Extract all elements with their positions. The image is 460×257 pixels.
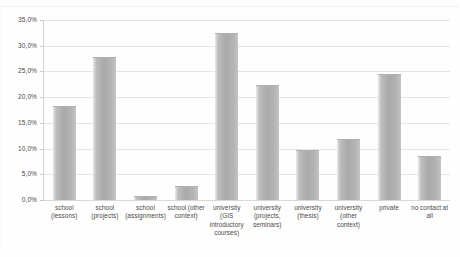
y-axis-tick-label: 5,0% [22, 170, 37, 177]
bar [337, 139, 360, 200]
bar [296, 150, 319, 200]
x-axis-category-label: school (lessons) [44, 204, 85, 221]
y-axis-tick-label: 35,0% [18, 16, 37, 23]
bar-chart-figure: 35,0%30,0%25,0%20,0%15,0%10,0%5,0%0,0% s… [0, 0, 460, 257]
x-axis-category-label: school (assignments) [125, 204, 166, 221]
x-axis-category-label: university (projects, seminars) [247, 204, 288, 229]
bar [175, 186, 198, 200]
x-axis-category-label: university (GIS introductory courses) [206, 204, 247, 238]
y-axis-tick-mark [40, 71, 44, 72]
bar [93, 57, 116, 200]
y-axis-tick-label: 25,0% [18, 67, 37, 74]
x-axis-category-label: no contact at all [409, 204, 450, 221]
y-axis-tick-label: 30,0% [18, 42, 37, 49]
y-axis-tick-mark [40, 149, 44, 150]
x-axis-category-label: university (other context) [328, 204, 369, 229]
y-axis-tick-mark [40, 97, 44, 98]
x-axis-category-labels: school (lessons)school (projects)school … [44, 204, 450, 256]
bars-layer [44, 20, 450, 201]
y-axis-tick-labels: 35,0%30,0%25,0%20,0%15,0%10,0%5,0%0,0% [0, 0, 37, 257]
y-axis-tick-mark [40, 46, 44, 47]
y-axis-tick-mark [40, 174, 44, 175]
bar [53, 106, 76, 200]
y-axis-tick-label: 20,0% [18, 93, 37, 100]
x-axis-category-label: school (projects) [85, 204, 126, 221]
x-axis-category-label: university (thesis) [288, 204, 329, 221]
x-axis-category-label: private [369, 204, 410, 212]
bar [418, 156, 441, 200]
y-axis-tick-mark [40, 20, 44, 21]
y-axis-tick-label: 10,0% [18, 145, 37, 152]
bar [215, 33, 238, 200]
y-axis-tick-mark [40, 123, 44, 124]
bar [134, 196, 157, 200]
bar [256, 85, 279, 200]
y-axis-tick-mark [40, 200, 44, 201]
bar [378, 74, 401, 200]
y-axis-tick-label: 0,0% [22, 196, 37, 203]
x-axis-category-label: school (other context) [166, 204, 207, 221]
y-axis-tick-label: 15,0% [18, 119, 37, 126]
